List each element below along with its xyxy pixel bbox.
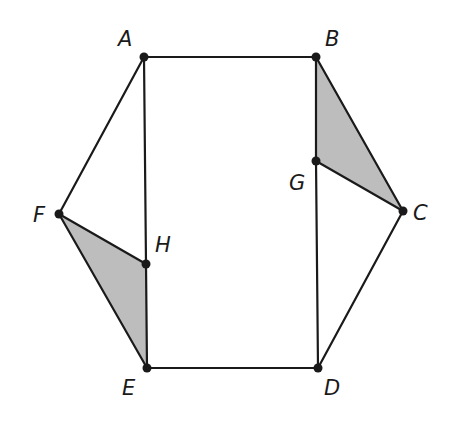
label-c: C	[413, 201, 428, 225]
label-g: G	[289, 171, 305, 195]
point-f	[55, 210, 64, 219]
point-e	[143, 364, 152, 373]
label-a: A	[116, 27, 132, 51]
label-d: D	[324, 376, 340, 400]
point-g	[312, 157, 321, 166]
label-e: E	[122, 376, 136, 400]
geometry-diagram: A B C D E F G H	[0, 0, 453, 422]
segment-ah	[144, 57, 146, 264]
point-h	[142, 260, 151, 269]
point-c	[399, 207, 408, 216]
label-h: H	[155, 233, 171, 257]
segment-he	[146, 264, 147, 368]
point-b	[312, 53, 321, 62]
label-f: F	[33, 203, 46, 227]
segment-fa	[59, 57, 144, 214]
segment-gd	[316, 161, 318, 368]
label-b: B	[325, 27, 339, 51]
point-a	[140, 53, 149, 62]
segment-cd	[318, 211, 403, 368]
point-d	[314, 364, 323, 373]
